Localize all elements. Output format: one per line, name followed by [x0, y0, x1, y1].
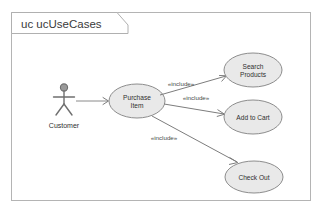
use-case-search-products-label-line2: Products	[240, 71, 267, 78]
use-case-search-products-label-line1: Search	[243, 63, 264, 70]
use-case-add-to-cart[interactable]: Add to Cart	[224, 100, 282, 134]
use-case-check-out-label: Check Out	[238, 174, 269, 181]
use-case-diagram-canvas: uc ucUseCases Customer Purchase Item «in…	[0, 0, 322, 212]
include-stereotype-label: «include»	[168, 80, 195, 87]
actor-customer-label: Customer	[49, 122, 80, 129]
use-case-check-out[interactable]: Check Out	[225, 161, 283, 193]
frame-name-tab-label: uc ucUseCases	[21, 18, 102, 30]
use-case-purchase-item-label-line1: Purchase	[123, 94, 151, 101]
include-stereotype-label: «include»	[151, 134, 178, 141]
use-case-add-to-cart-label: Add to Cart	[236, 114, 270, 121]
use-case-purchase-item-label-line2: Item	[131, 102, 144, 109]
actor-head-icon	[60, 84, 67, 91]
use-case-ellipse	[109, 84, 165, 118]
include-stereotype-label: «include»	[183, 94, 210, 101]
use-case-purchase-item[interactable]: Purchase Item	[109, 84, 165, 118]
use-case-search-products[interactable]: Search Products	[224, 53, 282, 87]
use-case-ellipse	[224, 53, 282, 87]
